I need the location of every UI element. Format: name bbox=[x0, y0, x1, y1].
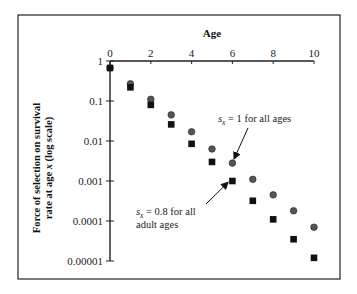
chart: Age Force of selection on survival rate … bbox=[0, 0, 357, 294]
data-point-square bbox=[270, 216, 277, 223]
data-point-circle bbox=[188, 128, 195, 135]
y-tick-label: 0.001 bbox=[78, 175, 103, 187]
y-tick-label: 0.01 bbox=[84, 135, 103, 147]
y-tick-label: 1 bbox=[98, 55, 104, 67]
x-tick-label: 6 bbox=[230, 47, 236, 59]
x-tick-label: 0 bbox=[107, 47, 113, 59]
data-point-circle bbox=[250, 176, 257, 183]
data-point-square bbox=[250, 197, 257, 204]
y-axis-title: Force of selection on survival rate at a… bbox=[31, 103, 55, 234]
annotations: sx = 1 for all agessx = 0.8 for alladult… bbox=[136, 113, 291, 230]
y-axis-title-line2: rate at age x (log scale) bbox=[43, 116, 55, 219]
y-tick-label: 0.0001 bbox=[73, 215, 103, 227]
data-point-circle bbox=[290, 207, 297, 214]
data-point-square bbox=[107, 65, 114, 72]
annotation-arrow-sx-1 bbox=[234, 128, 248, 158]
data-point-square bbox=[148, 102, 155, 109]
data-point-circle bbox=[168, 112, 175, 119]
data-point-square bbox=[229, 178, 236, 185]
data-point-square bbox=[209, 159, 216, 166]
x-axis-title: Age bbox=[203, 27, 221, 39]
y-axis-ticks: 10.10.010.0010.00010.00001 bbox=[67, 55, 114, 267]
y-tick-label: 0.1 bbox=[89, 95, 103, 107]
data-point-circle bbox=[311, 224, 318, 231]
data-point-square bbox=[127, 84, 134, 91]
data-point-circle bbox=[229, 160, 236, 167]
y-axis-title-line1: Force of selection on survival bbox=[31, 103, 42, 234]
data-point-square bbox=[188, 141, 195, 148]
data-point-square bbox=[311, 255, 318, 262]
annotation-sx-1: sx = 1 for all ages bbox=[218, 113, 291, 127]
annotation-arrow-sx-08 bbox=[206, 183, 227, 204]
x-tick-label: 10 bbox=[309, 47, 321, 59]
annotation-sx-08-line2: adult ages bbox=[136, 219, 178, 230]
data-point-circle bbox=[270, 192, 277, 199]
x-tick-label: 2 bbox=[148, 47, 154, 59]
y-tick-label: 0.00001 bbox=[67, 255, 103, 267]
data-point-square bbox=[290, 236, 297, 243]
annotation-sx-08: sx = 0.8 for all bbox=[136, 206, 196, 220]
series-square bbox=[107, 65, 318, 261]
data-point-square bbox=[168, 121, 175, 128]
data-point-circle bbox=[209, 146, 216, 153]
data-points bbox=[107, 65, 318, 261]
x-tick-label: 4 bbox=[189, 47, 195, 59]
x-tick-label: 8 bbox=[270, 47, 276, 59]
